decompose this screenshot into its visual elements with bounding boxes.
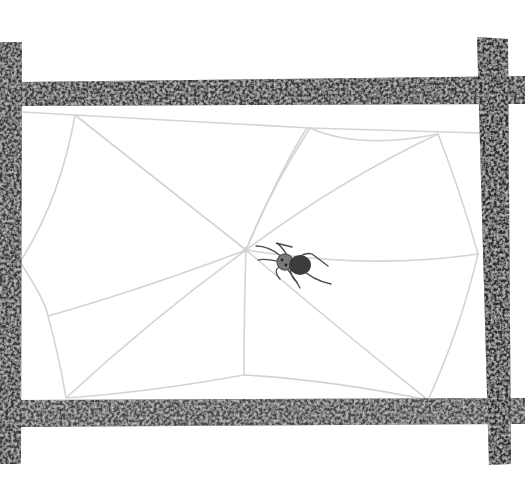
spider-abdomen (289, 255, 311, 275)
spider-web (20, 112, 480, 400)
wooden-frame (0, 37, 525, 465)
frame-bar-bottom (20, 398, 525, 427)
frame-bar-left (0, 42, 22, 464)
web-anchor-thread-top (22, 112, 480, 133)
web-spoke (246, 134, 438, 250)
web-spoke (75, 115, 246, 250)
spider-eye (285, 264, 288, 267)
spider-eye (281, 259, 284, 262)
web-spoke (48, 250, 246, 316)
spider-web-scene (0, 0, 525, 504)
spider-leg (276, 243, 292, 255)
web-spoke (244, 250, 246, 375)
web-outer-ring (20, 115, 478, 400)
frame-bar-top (20, 76, 525, 106)
spider (256, 243, 331, 288)
web-hub (243, 247, 249, 253)
web-spoke (66, 250, 246, 398)
